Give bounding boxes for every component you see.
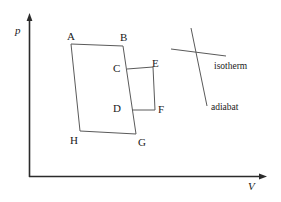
- axes-group: [27, 13, 267, 179]
- pv-diagram-figure: p V A B C D E F G H isotherm adiabat: [0, 0, 281, 202]
- y-axis-label: p: [15, 25, 21, 36]
- vertex-label-d: D: [113, 103, 121, 114]
- isotherm-label: isotherm: [214, 62, 247, 72]
- vertex-label-b: B: [120, 32, 127, 43]
- vertex-label-c: C: [113, 63, 120, 74]
- adiabat-label: adiabat: [211, 103, 238, 113]
- outer-cycle-path: [71, 44, 136, 134]
- isotherm-line: [171, 49, 226, 56]
- vertex-label-e: E: [152, 58, 159, 69]
- x-axis-arrowhead: [259, 174, 267, 180]
- vertex-label-h: H: [70, 135, 78, 146]
- vertex-label-f: F: [158, 104, 164, 115]
- x-axis-label: V: [248, 181, 255, 192]
- diagram-canvas: [0, 0, 281, 202]
- vertex-label-a: A: [67, 31, 75, 42]
- y-axis-arrowhead: [27, 13, 33, 21]
- adiabat-line: [191, 28, 207, 106]
- vertex-label-g: G: [138, 137, 146, 148]
